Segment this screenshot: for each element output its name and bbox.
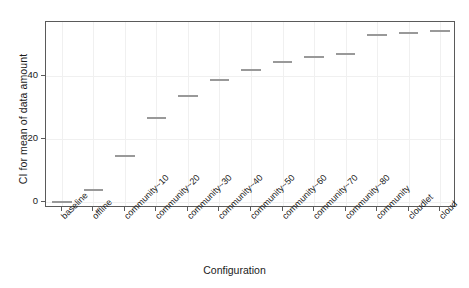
ci-interval-chart: CI for mean of data amount 02040 baselin… [0, 0, 469, 288]
x-axis-title: Configuration [0, 264, 469, 276]
data-interval-segment [178, 95, 198, 97]
y-axis-tick-label: 0 [0, 195, 38, 206]
vertical-gridline [409, 22, 410, 206]
horizontal-gridline [46, 76, 454, 77]
data-interval-segment [210, 79, 230, 81]
vertical-gridline [440, 22, 441, 206]
y-axis-title: CI for mean of data amount [17, 34, 29, 204]
data-interval-segment [399, 32, 419, 34]
data-interval-segment [115, 155, 135, 157]
data-interval-segment [52, 201, 72, 203]
y-axis-tick-label: 20 [0, 132, 38, 143]
data-interval-segment [430, 30, 450, 32]
vertical-gridline [62, 22, 63, 206]
horizontal-gridline [46, 139, 454, 140]
data-interval-segment [304, 56, 324, 58]
data-interval-segment [336, 53, 356, 55]
y-axis-tick-label: 40 [0, 69, 38, 80]
data-interval-segment [273, 61, 293, 63]
vertical-gridline [125, 22, 126, 206]
vertical-gridline [93, 22, 94, 206]
data-interval-segment [367, 34, 387, 36]
data-interval-segment [241, 69, 261, 71]
data-interval-segment [147, 117, 167, 119]
data-interval-segment [84, 189, 104, 191]
